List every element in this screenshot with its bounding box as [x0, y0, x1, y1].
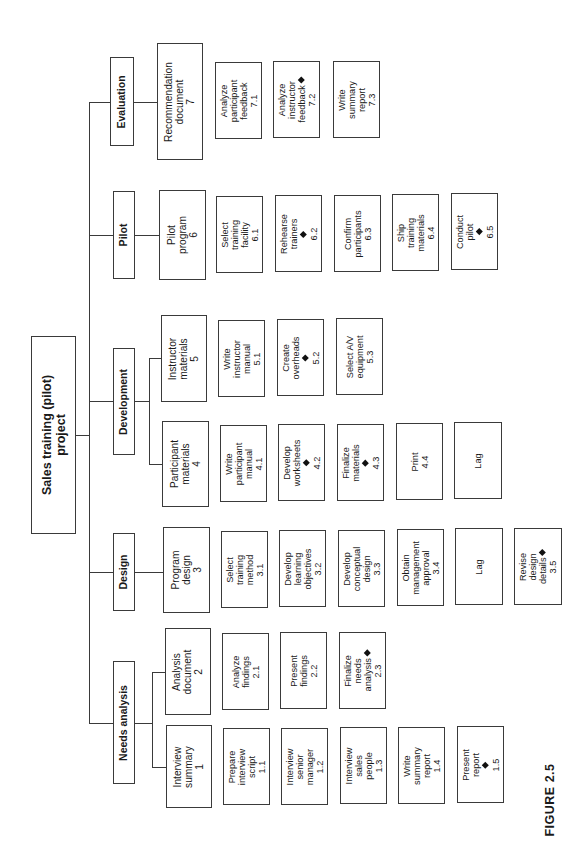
- task-3-1: Select training method 3.1: [221, 531, 268, 608]
- text-line: trainers: [288, 214, 298, 254]
- text-line: feedback: [297, 85, 307, 122]
- task-label: Write summary report 1.4: [401, 747, 441, 785]
- text-line: 6.5: [485, 214, 495, 248]
- task-lag-design: Lag: [455, 528, 503, 605]
- task-label: Write instructor manual 5.1: [221, 340, 261, 378]
- text-line: document: [174, 62, 185, 142]
- text-line: document: [182, 649, 193, 694]
- text-line: materials: [180, 440, 191, 488]
- text-line: 5: [190, 337, 201, 379]
- text-line: 6.3: [363, 210, 373, 257]
- text-line: 3.1: [255, 554, 265, 585]
- deliverable-recommendation-document: Recommendation document 7: [157, 43, 203, 160]
- text-line: script: [247, 748, 257, 784]
- task-7-2: Analyze instructor feedback 7.2: [273, 61, 320, 138]
- task-label: Develop learning objectives 3.2: [282, 548, 322, 589]
- text-line: 6.1: [250, 219, 260, 249]
- text-line: Write: [223, 442, 233, 484]
- text-line: materials: [178, 337, 189, 379]
- text-line: manual: [244, 442, 254, 484]
- milestone-diamond-icon: [481, 761, 488, 768]
- task-5-2: Create overheads 5.2: [277, 319, 324, 396]
- deliverable-program-design: Program design 3: [163, 527, 210, 613]
- phase-label: Needs analysis: [118, 685, 130, 761]
- text-line: 2: [194, 649, 205, 694]
- text-line: instructor: [231, 340, 241, 378]
- root-project-label: Sales training (pilot) project: [39, 375, 68, 495]
- task-label: Select A/V equipment 5.3: [344, 335, 374, 378]
- task-5-3: Select A/V equipment 5.3: [336, 318, 383, 395]
- text-line: report: [357, 81, 367, 119]
- task-6-4: Ship training materials 6.4: [392, 194, 439, 271]
- text-line: Rehearse: [278, 214, 288, 254]
- connector-na-d1: [152, 767, 166, 768]
- text-line: conceptual: [351, 546, 361, 590]
- task-4-2: Develop worksheets 4.2: [278, 424, 325, 501]
- text-line: 5.3: [365, 335, 375, 378]
- text-line: 7.3: [367, 81, 377, 119]
- text-line: 6.4: [426, 214, 436, 251]
- text-line: learning: [292, 548, 302, 589]
- text-line: approval: [421, 541, 431, 595]
- root-line-2: project: [54, 375, 68, 495]
- root-line-1: Sales training (pilot): [39, 375, 53, 495]
- task-6-5: Conduct pilot 6.5: [451, 193, 498, 270]
- connector-na-out: [135, 723, 152, 724]
- connector-eval-d7: [134, 102, 158, 103]
- text-line: needs: [352, 650, 362, 691]
- phase-pilot: Pilot: [113, 191, 135, 279]
- phase-label: Evaluation: [116, 75, 128, 128]
- text-line: Lag: [473, 453, 483, 468]
- connector-pilot-d6: [135, 235, 159, 236]
- figure-caption: FIGURE 2.5: [541, 760, 561, 840]
- text-line: 3.4: [431, 541, 441, 595]
- text-line: Interview: [284, 748, 294, 785]
- connector-dev-branch: [149, 358, 150, 465]
- text-line: overheads: [290, 336, 300, 379]
- text-line: details: [538, 557, 548, 584]
- text-line: 3.3: [372, 546, 382, 590]
- task-7-3: Write summary report 7.3: [333, 61, 380, 138]
- text-line: design: [362, 546, 372, 590]
- connector-design-d3: [135, 572, 163, 573]
- task-label: Lag: [474, 559, 484, 574]
- task-label: Confirm participants 6.3: [342, 210, 372, 257]
- connector-na-branch: [152, 672, 153, 768]
- task-label: Rehearse trainers 6.2: [278, 214, 318, 254]
- task-1-5: Present report 1.5: [457, 726, 504, 803]
- task-label: Revise design details 3.5: [518, 549, 558, 583]
- milestone-diamond-icon: [539, 548, 546, 555]
- task-2-3: Finalize needs analysis 2.3: [339, 632, 386, 709]
- text-line: Analyze: [218, 79, 228, 121]
- task-6-2: Rehearse trainers 6.2: [275, 195, 322, 272]
- text-line: program: [177, 216, 188, 254]
- text-line: Interview: [343, 747, 353, 784]
- text-line: Recommendation: [163, 62, 174, 142]
- task-label: Print 4.4: [409, 452, 429, 471]
- text-line: Finalize: [340, 444, 350, 481]
- phase-design: Design: [113, 533, 135, 611]
- text-line: Program: [170, 550, 181, 589]
- connector-dev-out: [135, 401, 149, 402]
- text-line: report: [422, 747, 432, 785]
- text-line: method: [245, 554, 255, 585]
- task-3-4: Obtain management approval 3.4: [397, 529, 444, 606]
- text-line: Select: [219, 219, 229, 249]
- deliverable-participant-materials: Participant materials 4: [162, 421, 209, 507]
- task-1-3: Interview sales people 1.3: [340, 727, 387, 804]
- task-6-3: Confirm participants 6.3: [334, 195, 381, 272]
- text-line: Select A/V: [344, 335, 354, 378]
- text-line: 2.1: [251, 655, 261, 688]
- task-2-2: Present findings 2.2: [280, 632, 327, 709]
- text-line: equipment: [354, 335, 364, 378]
- text-line: feedback: [239, 79, 249, 121]
- text-line: details: [538, 549, 548, 583]
- text-line: 7: [186, 62, 197, 142]
- task-lag-development: Lag: [454, 422, 502, 499]
- text-line: 1.4: [432, 747, 442, 785]
- text-line: design: [528, 549, 538, 583]
- connector-dev-d5: [149, 358, 161, 359]
- milestone-diamond-icon: [363, 649, 370, 656]
- text-line: 1.5: [491, 749, 501, 781]
- task-label: Ship training materials 6.4: [395, 214, 435, 251]
